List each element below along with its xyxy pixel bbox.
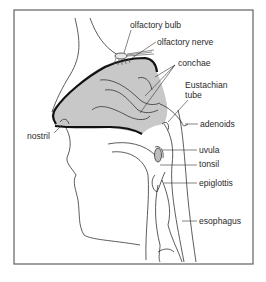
label-uvula: uvula [199,145,220,155]
label-eustachian-tube-2: tube [185,90,202,100]
olfactory-bulb-shape [115,53,127,59]
label-eustachian-tube-1: Eustachian [185,80,228,90]
label-adenoids: adenoids [200,119,235,129]
label-olfactory-nerve: olfactory nerve [157,37,214,47]
label-epiglottis: epiglottis [199,178,233,188]
label-tonsil: tonsil [199,159,219,169]
label-nostril: nostril [27,131,50,141]
label-conchae: conchae [178,58,211,68]
label-esophagus: esophagus [199,216,241,226]
label-olfactory-bulb: olfactory bulb [130,20,181,30]
tonsil-shape [155,148,162,162]
nasal-anatomy-diagram: olfactory bulb olfactory nerve conchae E… [0,0,266,282]
